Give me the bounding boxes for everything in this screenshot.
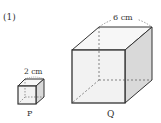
cube-p-edge-label: 2 cm — [24, 67, 42, 76]
cube-q-label: Q — [107, 109, 114, 119]
cube-q-front-face — [72, 50, 125, 103]
cube-q-edge-label: 6 cm — [113, 13, 133, 22]
cube-p: 2 cm P — [18, 67, 44, 118]
diagram-canvas: (1) 2 cm P 6 c — [0, 0, 161, 123]
cube-q: 6 cm Q — [72, 12, 152, 119]
cube-p-label: P — [27, 109, 33, 118]
problem-number: (1) — [3, 12, 16, 22]
